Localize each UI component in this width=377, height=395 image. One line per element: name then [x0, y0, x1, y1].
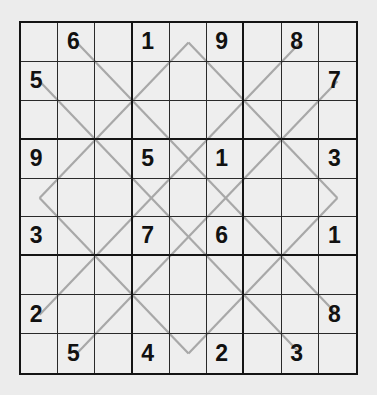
sudoku-cell-r2-c2[interactable] [58, 62, 95, 101]
sudoku-cell-r1-c1[interactable] [21, 23, 58, 62]
cell-digit: 5 [30, 67, 43, 94]
sudoku-cell-r7-c1[interactable] [21, 256, 58, 295]
sudoku-cell-r2-c9[interactable]: 7 [319, 62, 356, 101]
sudoku-cell-r9-c5[interactable] [170, 334, 207, 373]
sudoku-cell-r6-c8[interactable] [282, 217, 319, 256]
sudoku-cell-r6-c3[interactable] [95, 217, 132, 256]
sudoku-cell-r3-c6[interactable] [207, 101, 244, 140]
sudoku-cell-r3-c4[interactable] [133, 101, 170, 140]
sudoku-cell-r1-c5[interactable] [170, 23, 207, 62]
sudoku-board: 61985795133761285423 [19, 21, 358, 375]
sudoku-cell-r5-c5[interactable] [170, 179, 207, 218]
sudoku-cell-r8-c9[interactable]: 8 [319, 295, 356, 334]
sudoku-cell-r9-c7[interactable] [244, 334, 281, 373]
sudoku-cell-r4-c2[interactable] [58, 140, 95, 179]
sudoku-cell-r4-c8[interactable] [282, 140, 319, 179]
cell-digit: 5 [67, 340, 80, 367]
sudoku-cell-r2-c4[interactable] [133, 62, 170, 101]
sudoku-cell-r8-c7[interactable] [244, 295, 281, 334]
sudoku-cell-r4-c4[interactable]: 5 [133, 140, 170, 179]
sudoku-cell-r3-c7[interactable] [244, 101, 281, 140]
cell-digit: 6 [67, 28, 80, 55]
cell-digit: 8 [290, 28, 303, 55]
sudoku-cell-r9-c3[interactable] [95, 334, 132, 373]
sudoku-cell-r9-c1[interactable] [21, 334, 58, 373]
sudoku-cell-r2-c7[interactable] [244, 62, 281, 101]
sudoku-cell-r3-c5[interactable] [170, 101, 207, 140]
sudoku-cell-r7-c7[interactable] [244, 256, 281, 295]
sudoku-cell-r9-c6[interactable]: 2 [207, 334, 244, 373]
cell-digit: 1 [215, 145, 228, 172]
sudoku-cell-r4-c1[interactable]: 9 [21, 140, 58, 179]
sudoku-cell-r2-c5[interactable] [170, 62, 207, 101]
sudoku-cell-r4-c6[interactable]: 1 [207, 140, 244, 179]
cell-digit: 2 [215, 340, 228, 367]
sudoku-cell-r1-c9[interactable] [319, 23, 356, 62]
sudoku-cell-r9-c2[interactable]: 5 [58, 334, 95, 373]
sudoku-cell-r7-c2[interactable] [58, 256, 95, 295]
sudoku-cell-r3-c2[interactable] [58, 101, 95, 140]
sudoku-cell-r5-c9[interactable] [319, 179, 356, 218]
sudoku-cell-r9-c4[interactable]: 4 [133, 334, 170, 373]
sudoku-cell-r5-c8[interactable] [282, 179, 319, 218]
sudoku-cell-r7-c8[interactable] [282, 256, 319, 295]
cell-digit: 9 [30, 145, 43, 172]
sudoku-cell-r8-c6[interactable] [207, 295, 244, 334]
sudoku-cell-r7-c9[interactable] [319, 256, 356, 295]
sudoku-cell-r1-c2[interactable]: 6 [58, 23, 95, 62]
sudoku-cell-r6-c9[interactable]: 1 [319, 217, 356, 256]
cell-digit: 7 [141, 222, 154, 249]
sudoku-cell-r8-c8[interactable] [282, 295, 319, 334]
sudoku-cell-r8-c1[interactable]: 2 [21, 295, 58, 334]
sudoku-cell-r5-c7[interactable] [244, 179, 281, 218]
sudoku-cell-r5-c4[interactable] [133, 179, 170, 218]
sudoku-cell-r6-c6[interactable]: 6 [207, 217, 244, 256]
sudoku-cell-r4-c3[interactable] [95, 140, 132, 179]
sudoku-cell-r6-c7[interactable] [244, 217, 281, 256]
sudoku-cell-r5-c2[interactable] [58, 179, 95, 218]
sudoku-cell-r1-c7[interactable] [244, 23, 281, 62]
sudoku-cell-r1-c3[interactable] [95, 23, 132, 62]
sudoku-cell-r6-c1[interactable]: 3 [21, 217, 58, 256]
sudoku-cell-r5-c3[interactable] [95, 179, 132, 218]
cell-digit: 1 [328, 222, 341, 249]
sudoku-cell-r9-c8[interactable]: 3 [282, 334, 319, 373]
cell-digit: 3 [30, 222, 43, 249]
cell-digit: 1 [141, 28, 154, 55]
sudoku-cell-r2-c3[interactable] [95, 62, 132, 101]
sudoku-cell-r5-c6[interactable] [207, 179, 244, 218]
sudoku-cell-r1-c4[interactable]: 1 [133, 23, 170, 62]
sudoku-cell-r3-c3[interactable] [95, 101, 132, 140]
sudoku-cell-r3-c8[interactable] [282, 101, 319, 140]
sudoku-cell-r7-c4[interactable] [133, 256, 170, 295]
sudoku-cell-r6-c4[interactable]: 7 [133, 217, 170, 256]
sudoku-cell-r1-c8[interactable]: 8 [282, 23, 319, 62]
sudoku-cell-r2-c1[interactable]: 5 [21, 62, 58, 101]
cell-digit: 6 [215, 222, 228, 249]
sudoku-cell-r6-c2[interactable] [58, 217, 95, 256]
cell-digit: 8 [328, 301, 341, 328]
sudoku-cell-r4-c5[interactable] [170, 140, 207, 179]
sudoku-grid: 61985795133761285423 [21, 23, 356, 373]
cell-digit: 4 [141, 340, 154, 367]
sudoku-cell-r5-c1[interactable] [21, 179, 58, 218]
sudoku-cell-r1-c6[interactable]: 9 [207, 23, 244, 62]
sudoku-cell-r7-c3[interactable] [95, 256, 132, 295]
sudoku-cell-r6-c5[interactable] [170, 217, 207, 256]
sudoku-cell-r8-c5[interactable] [170, 295, 207, 334]
sudoku-cell-r2-c6[interactable] [207, 62, 244, 101]
cell-digit: 7 [328, 67, 341, 94]
sudoku-cell-r8-c2[interactable] [58, 295, 95, 334]
sudoku-cell-r3-c1[interactable] [21, 101, 58, 140]
sudoku-cell-r7-c5[interactable] [170, 256, 207, 295]
cell-digit: 3 [290, 340, 303, 367]
sudoku-cell-r8-c4[interactable] [133, 295, 170, 334]
sudoku-cell-r2-c8[interactable] [282, 62, 319, 101]
sudoku-cell-r8-c3[interactable] [95, 295, 132, 334]
cell-digit: 5 [141, 145, 154, 172]
sudoku-cell-r3-c9[interactable] [319, 101, 356, 140]
sudoku-cell-r4-c9[interactable]: 3 [319, 140, 356, 179]
sudoku-cell-r9-c9[interactable] [319, 334, 356, 373]
sudoku-cell-r7-c6[interactable] [207, 256, 244, 295]
sudoku-cell-r4-c7[interactable] [244, 140, 281, 179]
